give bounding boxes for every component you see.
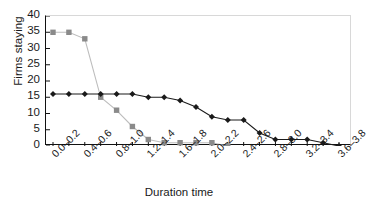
x-axis-label: Duration time [0,186,358,198]
series-diamonds-marker [66,91,72,97]
series-squares-marker [50,30,55,35]
y-axis-tick: 10 [20,107,40,119]
series-diamonds-marker [161,94,167,100]
series-squares-marker [114,108,119,113]
y-axis-tick: 40 [20,9,40,21]
y-axis-tick: 5 [20,123,40,135]
series-squares-marker [146,137,151,142]
y-axis-tick: 15 [20,91,40,103]
y-axis-tick-labels: 0510152025303540 [20,0,40,211]
plot-area [45,15,351,145]
series-diamonds-marker [209,114,215,120]
series-squares-marker [66,30,71,35]
series-diamonds-marker [145,94,151,100]
series-diamonds-marker [129,91,135,97]
y-axis-tick: 25 [20,58,40,70]
series-squares-marker [82,36,87,41]
series-diamonds-marker [304,137,310,143]
series-diamonds-marker [82,91,88,97]
series-diamonds-marker [272,137,278,143]
y-axis-tick: 30 [20,42,40,54]
series-diamonds-marker [114,91,120,97]
y-axis-tick: 35 [20,26,40,38]
series-diamonds-marker [193,104,199,110]
y-axis-tick: 0 [20,139,40,151]
series-diamonds-marker [225,117,231,123]
series-diamonds-marker [177,98,183,104]
series-diamonds-marker [50,91,56,97]
y-axis-tick: 20 [20,74,40,86]
